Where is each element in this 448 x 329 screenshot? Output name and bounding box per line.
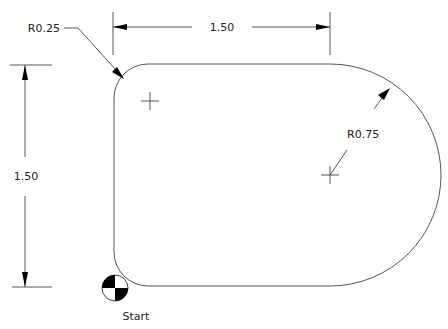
width-dimension: 1.50 <box>113 12 330 55</box>
start-label: Start <box>123 310 151 323</box>
part-drawing: 1.50 1.50 R0.25 R0.75 Start <box>0 0 448 329</box>
part-outline <box>114 64 441 286</box>
corner-radius-label: R0.25 <box>28 22 60 35</box>
height-dimension-label: 1.50 <box>14 170 39 183</box>
height-dimension: 1.50 <box>10 65 52 287</box>
width-dimension-label: 1.50 <box>210 21 235 34</box>
corner-radius-callout: R0.25 <box>28 22 124 79</box>
datum-target-icon <box>102 275 128 301</box>
arc-radius-label: R0.75 <box>347 128 379 141</box>
corner-center-mark <box>141 92 159 110</box>
arc-radius-callout: R0.75 <box>330 88 390 175</box>
